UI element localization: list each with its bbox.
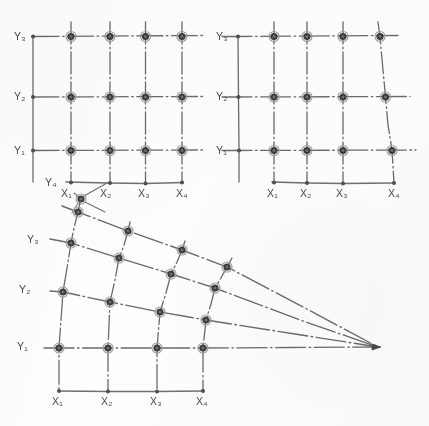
axis-label-y3: Y₃: [14, 31, 26, 42]
axis-label-x1: X₁: [52, 396, 63, 407]
grid-node[interactable]: [269, 92, 279, 102]
grid-node[interactable]: [338, 146, 348, 156]
axis-dot-y3: [236, 35, 240, 39]
grid-node[interactable]: [73, 207, 83, 217]
axis-dot-y3: [31, 35, 35, 39]
axis-label-y2: Y₂: [19, 284, 30, 295]
axis-label-y1: Y₁: [14, 145, 25, 156]
grid-node[interactable]: [105, 92, 115, 102]
panel-sheared-grid: [222, 22, 416, 186]
grid-node[interactable]: [201, 315, 211, 325]
axis-dot-y1: [237, 149, 241, 153]
figure-canvas: [0, 0, 429, 426]
grid-node[interactable]: [141, 146, 151, 156]
axis-label-y1: Y₁: [216, 145, 227, 156]
grid-node[interactable]: [177, 92, 187, 102]
grid-node[interactable]: [302, 32, 312, 42]
axis-dot-y1: [31, 149, 35, 153]
grid-node[interactable]: [141, 92, 151, 102]
axis-label-x2: X₂: [101, 396, 112, 407]
callout-leader-lower: [85, 202, 105, 212]
axis-label-y2: Y₂: [216, 91, 227, 102]
axis-label-x3: X₃: [336, 188, 348, 199]
row-line-y2-converging: [50, 291, 378, 347]
grid-node[interactable]: [222, 262, 232, 272]
baseline-dot-x3: [144, 182, 148, 186]
panel-rectangular-grid: [31, 22, 205, 213]
grid-node[interactable]: [141, 32, 151, 42]
grid-node[interactable]: [105, 146, 115, 156]
axis-label-y3: Y₃: [27, 234, 39, 245]
grid-node[interactable]: [387, 146, 397, 156]
callout-node[interactable]: [76, 194, 86, 204]
row-line-baseline: [272, 182, 393, 184]
grid-node[interactable]: [166, 269, 176, 279]
grid-node[interactable]: [381, 92, 391, 102]
grid-node[interactable]: [302, 146, 312, 156]
baseline-dot-x4: [180, 181, 184, 185]
baseline-dot-x1: [57, 389, 61, 393]
grid-node[interactable]: [152, 343, 162, 353]
baseline-dot-x2: [108, 181, 112, 185]
grid-node[interactable]: [105, 297, 115, 307]
row-line-y4-baseline: [66, 182, 183, 184]
axis-label-y3: Y₃: [216, 31, 228, 42]
figure-root: Y₃ Y₂ Y₁ Y₄ X₁ X₂ X₃ X₄ Y₃ Y₂ Y₁ X₁ X₂ X…: [0, 0, 429, 426]
baseline-dot-x1: [272, 181, 276, 185]
grid-node[interactable]: [302, 92, 312, 102]
axis-label-x2: X₂: [300, 188, 311, 199]
baseline-dot-x4: [392, 181, 396, 185]
grid-node[interactable]: [338, 92, 348, 102]
vanishing-point-marker: [372, 344, 381, 350]
axis-label-x1: X₁: [61, 188, 72, 199]
grid-node[interactable]: [375, 32, 385, 42]
grid-node[interactable]: [123, 226, 133, 236]
baseline-dot-x3: [155, 390, 159, 394]
grid-node[interactable]: [66, 238, 76, 248]
grid-node[interactable]: [177, 146, 187, 156]
grid-node[interactable]: [177, 32, 187, 42]
axis-label-x4: X₄: [196, 396, 208, 407]
grid-node[interactable]: [114, 253, 124, 263]
row-line-y1-converging: [44, 347, 378, 348]
panel-perspective-grid: [44, 202, 381, 394]
axis-label-y4: Y₄: [45, 177, 57, 188]
row-line-y2: [222, 97, 410, 98]
grid-node[interactable]: [66, 92, 76, 102]
axis-label-x2: X₂: [100, 188, 111, 199]
baseline-dot-x1: [69, 181, 73, 185]
grid-node[interactable]: [269, 146, 279, 156]
grid-node[interactable]: [66, 32, 76, 42]
axis-label-x3: X₃: [150, 396, 162, 407]
axis-label-x4: X₄: [176, 188, 188, 199]
axis-dot-y2: [237, 95, 241, 99]
axis-label-x3: X₃: [138, 188, 150, 199]
grid-node[interactable]: [54, 343, 64, 353]
axis-label-x1: X₁: [267, 188, 278, 199]
baseline-dot-x3: [341, 182, 345, 186]
grid-node[interactable]: [210, 283, 220, 293]
grid-node[interactable]: [58, 287, 68, 297]
grid-node[interactable]: [338, 32, 348, 42]
axis-label-y1: Y₁: [17, 341, 28, 352]
axis-label-x4: X₄: [388, 188, 400, 199]
row-line-baseline: [59, 391, 203, 392]
axis-dot-y2: [31, 95, 35, 99]
baseline-dot-x2: [305, 181, 309, 185]
grid-node[interactable]: [177, 245, 187, 255]
baseline-dot-x4: [201, 389, 205, 393]
grid-left-edge: [238, 36, 239, 182]
grid-node[interactable]: [155, 307, 165, 317]
grid-node[interactable]: [103, 343, 113, 353]
axis-label-y2: Y₂: [14, 91, 25, 102]
grid-node[interactable]: [198, 343, 208, 353]
grid-node[interactable]: [66, 146, 76, 156]
grid-node[interactable]: [105, 32, 115, 42]
baseline-dot-x2: [106, 390, 110, 394]
grid-node[interactable]: [269, 32, 279, 42]
